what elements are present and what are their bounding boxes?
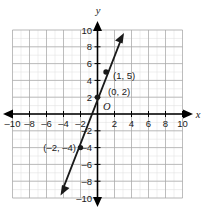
x-axis-label: x bbox=[195, 109, 201, 120]
x-tick-label-2: 2 bbox=[112, 118, 117, 129]
graph-canvas: –10 –8 –6 –4 –2 2 4 6 8 10 10 8 6 4 2 –2… bbox=[0, 0, 211, 208]
x-tick-label-6: 6 bbox=[146, 118, 151, 129]
y-tick-label-10: 10 bbox=[81, 25, 92, 36]
data-point-1-5 bbox=[103, 69, 108, 74]
y-tick-label-6: 6 bbox=[87, 58, 92, 69]
x-tick-label--8: –8 bbox=[24, 118, 35, 129]
y-tick-label--8: –8 bbox=[81, 176, 92, 187]
point-label--2--4: (–2, –4) bbox=[43, 142, 76, 153]
x-tick-label--6: –6 bbox=[41, 118, 52, 129]
y-tick-label-2: 2 bbox=[87, 92, 92, 103]
y-tick-label-4: 4 bbox=[87, 75, 92, 86]
y-tick-label--6: –6 bbox=[81, 159, 92, 170]
origin-label: O bbox=[103, 101, 111, 112]
point-label-0-2: (0, 2) bbox=[108, 86, 130, 97]
y-tick-label-8: 8 bbox=[87, 41, 92, 52]
data-point-0-2 bbox=[95, 95, 100, 100]
coordinate-plane-figure: –10 –8 –6 –4 –2 2 4 6 8 10 10 8 6 4 2 –2… bbox=[0, 0, 211, 208]
x-tick-label--10: –10 bbox=[5, 118, 21, 129]
y-axis-label: y bbox=[95, 5, 101, 16]
data-point--2--4 bbox=[78, 145, 83, 150]
x-tick-label-10: 10 bbox=[177, 118, 188, 129]
point-label-1-5: (1, 5) bbox=[113, 70, 135, 81]
x-tick-label-8: 8 bbox=[163, 118, 168, 129]
x-tick-label--4: –4 bbox=[58, 118, 69, 129]
x-tick-label-4: 4 bbox=[129, 118, 134, 129]
y-tick-label--10: –10 bbox=[76, 193, 92, 204]
